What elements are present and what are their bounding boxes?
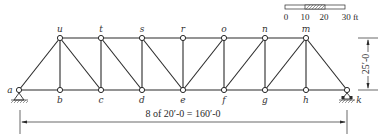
node-label-o: o bbox=[221, 24, 227, 34]
span-dimension-label: 8 of 20′-0 = 160′-0 bbox=[145, 108, 220, 119]
pin-support-a bbox=[11, 93, 28, 103]
height-dimension-label: 25′-0 bbox=[360, 54, 371, 75]
roller-support-k bbox=[339, 93, 355, 103]
node-label-b: b bbox=[57, 95, 63, 105]
node-label-m: m bbox=[302, 24, 311, 34]
node-t bbox=[98, 35, 103, 40]
node-label-k: k bbox=[356, 95, 361, 105]
node-label-f: f bbox=[221, 95, 227, 105]
node-c bbox=[98, 87, 103, 92]
node-label-a: a bbox=[7, 85, 12, 95]
node-f bbox=[221, 87, 226, 92]
node-label-h: h bbox=[303, 95, 309, 105]
node-label-u: u bbox=[57, 24, 63, 34]
height-dimension: 25′-0 bbox=[358, 38, 378, 90]
truss-diagram: abcdefghkutsronm 8 of 20′-0 = 160′-0 25′… bbox=[0, 0, 381, 138]
node-k bbox=[344, 87, 349, 92]
arrowhead-right-icon bbox=[340, 121, 346, 124]
scale-bar: 0 10 20 30 ft bbox=[284, 5, 359, 22]
node-a bbox=[16, 87, 21, 92]
node-label-d: d bbox=[139, 95, 145, 105]
scale-tick-0: 0 bbox=[284, 12, 289, 22]
scale-tick-20: 20 bbox=[320, 12, 330, 22]
node-u bbox=[57, 35, 62, 40]
node-label-r: r bbox=[181, 24, 186, 34]
member-a-u bbox=[19, 38, 60, 90]
member-t-d bbox=[101, 38, 142, 90]
arrowhead-up-icon bbox=[367, 39, 370, 45]
member-f-n bbox=[224, 38, 265, 90]
node-label-t: t bbox=[99, 24, 103, 34]
member-m-k bbox=[306, 38, 347, 90]
node-r bbox=[180, 35, 185, 40]
arrowhead-left-icon bbox=[21, 121, 27, 124]
truss-members bbox=[19, 38, 347, 90]
node-m bbox=[303, 35, 308, 40]
node-o bbox=[221, 35, 226, 40]
node-e bbox=[180, 87, 185, 92]
node-s bbox=[139, 35, 144, 40]
node-d bbox=[139, 87, 144, 92]
node-label-e: e bbox=[180, 95, 185, 105]
node-label-s: s bbox=[140, 24, 145, 34]
member-u-c bbox=[60, 38, 101, 90]
span-dimension: 8 of 20′-0 = 160′-0 bbox=[20, 108, 347, 134]
scale-tick-30: 30 ft bbox=[342, 12, 359, 22]
node-label-g: g bbox=[262, 95, 268, 105]
member-e-o bbox=[183, 38, 224, 90]
member-s-e bbox=[142, 38, 183, 90]
node-h bbox=[303, 87, 308, 92]
node-n bbox=[262, 35, 267, 40]
arrowhead-down-icon bbox=[367, 83, 370, 89]
node-label-n: n bbox=[262, 24, 268, 34]
node-label-c: c bbox=[98, 95, 103, 105]
scale-tick-10: 10 bbox=[301, 12, 311, 22]
member-g-m bbox=[265, 38, 306, 90]
node-b bbox=[57, 87, 62, 92]
node-g bbox=[262, 87, 267, 92]
